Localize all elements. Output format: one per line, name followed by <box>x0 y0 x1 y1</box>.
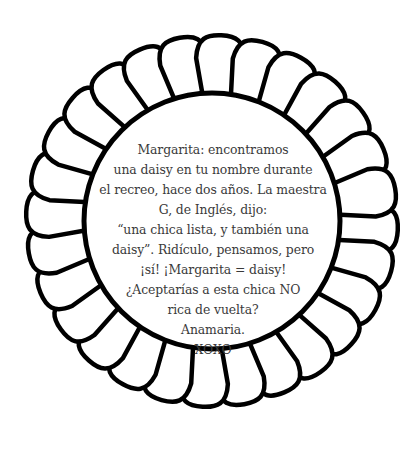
message-line: ¿Aceptarías a esta chica NO <box>87 280 339 300</box>
message-line: G, de Inglés, dijo: <box>87 200 339 220</box>
message-line: Margarita: encontramos <box>87 140 339 160</box>
message-line: el recreo, hace dos años. La maestra <box>87 180 339 200</box>
message-line: “una chica lista, y también una <box>87 220 339 240</box>
message-line: rica de vuelta? <box>87 300 339 320</box>
sign-off: XOXO <box>87 340 339 360</box>
message-text: Margarita: encontramos una daisy en tu n… <box>87 140 339 360</box>
message-line: ¡sí! ¡Margarita = daisy! <box>87 260 339 280</box>
signature: Anamaria. <box>87 320 339 340</box>
message-line: daisy”. Ridículo, pensamos, pero <box>87 240 339 260</box>
message-line: una daisy en tu nombre durante <box>87 160 339 180</box>
